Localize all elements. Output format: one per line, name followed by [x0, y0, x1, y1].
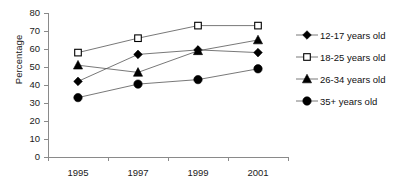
series-line: [78, 26, 258, 53]
line-chart-figure: Percentage 01020304050607080 19951997199…: [0, 0, 399, 192]
chart-legend: 12-17 years old18-25 years old26-34 year…: [296, 24, 399, 112]
x-tick-label: 2001: [236, 167, 280, 178]
data-point-filled-triangle: [302, 74, 311, 83]
y-tick-label: 40: [29, 79, 40, 90]
series-line: [78, 40, 258, 72]
series-plot: [48, 13, 288, 157]
legend-item[interactable]: 35+ years old: [296, 90, 399, 112]
series-26-34-years-old: [73, 35, 262, 76]
y-tick-label: 60: [29, 43, 40, 54]
y-tick-label: 50: [29, 61, 40, 72]
data-point-open-square: [75, 49, 82, 56]
y-tick-label: 20: [29, 115, 40, 126]
data-point-filled-diamond: [303, 31, 312, 40]
x-tick-label: 1997: [116, 167, 160, 178]
data-point-filled-diamond: [134, 50, 143, 59]
legend-label: 26-34 years old: [318, 74, 385, 85]
series-line: [78, 50, 258, 82]
y-tick-label: 0: [35, 151, 40, 162]
x-tick: [48, 157, 49, 161]
series-line: [78, 69, 258, 98]
legend-label: 35+ years old: [318, 96, 377, 107]
data-point-filled-circle: [303, 97, 311, 105]
y-axis-title: Percentage: [13, 15, 24, 105]
legend-label: 12-17 years old: [318, 30, 385, 41]
y-tick-label: 10: [29, 133, 40, 144]
data-point-open-square: [135, 35, 142, 42]
legend-item[interactable]: 18-25 years old: [296, 46, 399, 68]
plot-area: 01020304050607080 1995199719992001: [48, 13, 288, 157]
legend-marker-open-square: [296, 50, 318, 64]
series-18-25-years-old: [75, 22, 262, 56]
legend-item[interactable]: 12-17 years old: [296, 24, 399, 46]
x-tick-label: 1995: [56, 167, 100, 178]
x-tick-label: 1999: [176, 167, 220, 178]
x-tick: [108, 157, 109, 161]
data-point-open-square: [304, 54, 311, 61]
x-tick: [228, 157, 229, 161]
x-tick: [288, 157, 289, 161]
data-point-filled-circle: [194, 75, 202, 83]
data-point-open-square: [195, 22, 202, 29]
series-12-17-years-old: [74, 46, 263, 86]
data-point-filled-circle: [134, 80, 142, 88]
y-tick-label: 30: [29, 97, 40, 108]
data-point-filled-circle: [254, 65, 262, 73]
data-point-filled-diamond: [74, 77, 83, 86]
data-point-filled-triangle: [253, 35, 262, 44]
y-tick-label: 70: [29, 25, 40, 36]
data-point-filled-diamond: [254, 48, 263, 57]
data-point-filled-circle: [74, 93, 82, 101]
legend-marker-filled-triangle: [296, 72, 318, 86]
legend-marker-filled-circle: [296, 94, 318, 108]
y-tick-label: 80: [29, 7, 40, 18]
data-point-filled-triangle: [73, 60, 82, 69]
legend-marker-filled-diamond: [296, 28, 318, 42]
x-tick: [168, 157, 169, 161]
legend-label: 18-25 years old: [318, 52, 385, 63]
data-point-open-square: [255, 22, 262, 29]
legend-item[interactable]: 26-34 years old: [296, 68, 399, 90]
